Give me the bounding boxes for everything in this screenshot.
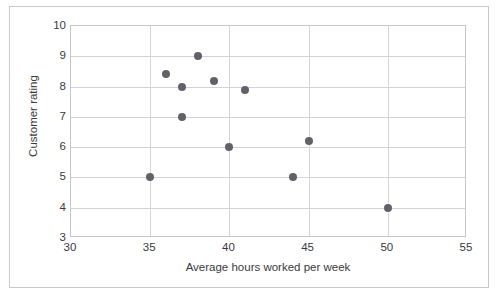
x-axis-tick-label: 30 (50, 241, 90, 254)
gridline-vertical (309, 26, 310, 236)
data-point (289, 173, 297, 181)
x-axis-title: Average hours worked per week (70, 261, 466, 273)
y-axis-tick-label: 5 (42, 170, 66, 182)
gridline-horizontal (71, 117, 465, 118)
scatter-chart: 345678910 303540455055 Average hours wor… (0, 0, 499, 299)
plot-area (70, 25, 466, 237)
data-point (178, 83, 186, 91)
y-axis-title: Customer rating (27, 41, 39, 191)
gridline-vertical (229, 26, 230, 236)
data-point (384, 204, 392, 212)
gridline-horizontal (71, 56, 465, 57)
data-point (178, 113, 186, 121)
gridline-horizontal (71, 147, 465, 148)
y-axis-tick-labels: 345678910 (40, 25, 66, 237)
gridline-vertical (150, 26, 151, 236)
y-axis-tick-label: 9 (42, 49, 66, 61)
y-axis-tick-label: 7 (42, 110, 66, 122)
y-axis-tick-label: 6 (42, 140, 66, 152)
y-axis-tick-label: 8 (42, 80, 66, 92)
y-axis-tick-label: 10 (42, 19, 66, 31)
data-point (146, 173, 154, 181)
gridline-horizontal (71, 87, 465, 88)
data-point (225, 143, 233, 151)
x-axis-tick-label: 45 (288, 241, 328, 254)
x-axis-tick-labels: 303540455055 (70, 241, 466, 257)
gridline-horizontal (71, 177, 465, 178)
gridline-horizontal (71, 208, 465, 209)
data-point (194, 52, 202, 60)
y-axis-tick-label: 4 (42, 201, 66, 213)
x-axis-tick-label: 40 (208, 241, 248, 254)
x-axis-tick-label: 55 (446, 241, 486, 254)
x-axis-tick-label: 35 (129, 241, 169, 254)
data-point (305, 137, 313, 145)
data-point (241, 86, 249, 94)
x-axis-tick-label: 50 (367, 241, 407, 254)
data-point (210, 77, 218, 85)
data-point (162, 70, 170, 78)
